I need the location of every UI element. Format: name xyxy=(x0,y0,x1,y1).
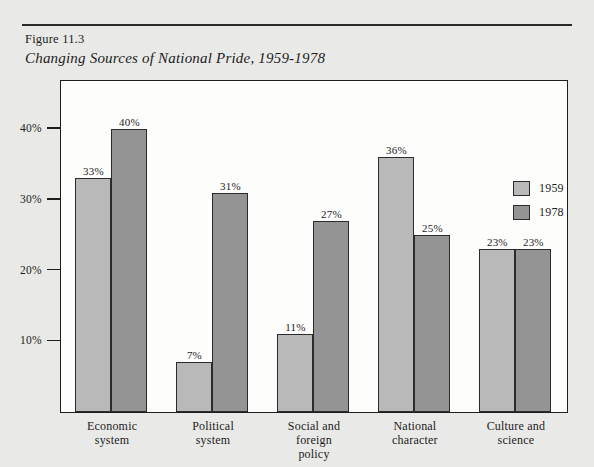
y-axis-tick: 40% xyxy=(47,127,61,129)
x-axis-category-line: Social and xyxy=(264,419,365,433)
bar-1959-2: 7% xyxy=(176,362,212,412)
y-axis-tick: 20% xyxy=(47,269,61,271)
bar-value-label: 40% xyxy=(119,116,140,128)
bar-1959-5: 23% xyxy=(479,249,515,412)
y-axis-tick: 30% xyxy=(47,198,61,200)
legend-item-1959: 1959 xyxy=(513,181,564,196)
figure-title: Changing Sources of National Pride, 1959… xyxy=(25,50,325,67)
legend-label: 1978 xyxy=(539,205,564,220)
x-axis-category-label: Culture andscience xyxy=(465,419,566,447)
x-axis-category-label: Politicalsystem xyxy=(163,419,264,447)
figure-number: Figure 11.3 xyxy=(25,32,84,47)
bar-1978-3: 27% xyxy=(313,221,349,412)
x-axis-category-label: Economicsystem xyxy=(62,419,163,447)
x-axis-category-label: Nationalcharacter xyxy=(364,419,465,447)
x-axis-category-line: National xyxy=(364,419,465,433)
y-axis-tick-label: 20% xyxy=(20,264,42,276)
chart-plot-area: 40%30%20%10%33%40%7%31%11%27%36%25%23%23… xyxy=(61,81,567,412)
bar-value-label: 11% xyxy=(285,321,305,333)
y-axis-tick-label: 30% xyxy=(20,193,42,205)
x-axis-category-line: policy xyxy=(264,447,365,461)
x-axis-category-line: Economic xyxy=(62,419,163,433)
x-axis-category-label: Social andforeignpolicy xyxy=(264,419,365,461)
bar-value-label: 7% xyxy=(187,349,202,361)
bar-value-label: 25% xyxy=(422,222,443,234)
legend-item-1978: 1978 xyxy=(513,205,564,220)
bar-1978-5: 23% xyxy=(515,249,551,412)
legend-label: 1959 xyxy=(539,181,564,196)
x-axis-category-line: system xyxy=(62,433,163,447)
bar-1959-3: 11% xyxy=(277,334,313,412)
bar-value-label: 23% xyxy=(487,236,508,248)
x-axis-category-line: system xyxy=(163,433,264,447)
bar-value-label: 36% xyxy=(386,144,407,156)
chart-legend: 19591978 xyxy=(513,181,564,229)
bar-1978-1: 40% xyxy=(111,129,147,412)
bar-1959-4: 36% xyxy=(378,157,414,412)
legend-swatch-1978 xyxy=(513,205,530,220)
y-axis-tick-label: 10% xyxy=(20,334,42,346)
chart-plot-frame: 40%30%20%10%33%40%7%31%11%27%36%25%23%23… xyxy=(60,80,568,413)
bar-value-label: 31% xyxy=(220,180,241,192)
x-axis-category-line: foreign xyxy=(264,433,365,447)
y-axis-tick: 10% xyxy=(47,340,61,342)
legend-swatch-1959 xyxy=(513,181,530,196)
x-axis-category-line: Culture and xyxy=(465,419,566,433)
bar-value-label: 27% xyxy=(321,208,342,220)
x-axis-category-line: Political xyxy=(163,419,264,433)
header-rule xyxy=(22,24,572,26)
bar-1959-1: 33% xyxy=(75,178,111,412)
bar-value-label: 33% xyxy=(83,165,104,177)
y-axis-tick-label: 40% xyxy=(20,122,42,134)
bar-1978-4: 25% xyxy=(414,235,450,412)
bar-value-label: 23% xyxy=(523,236,544,248)
bar-1978-2: 31% xyxy=(212,193,248,412)
x-axis-category-line: character xyxy=(364,433,465,447)
x-axis-category-line: science xyxy=(465,433,566,447)
